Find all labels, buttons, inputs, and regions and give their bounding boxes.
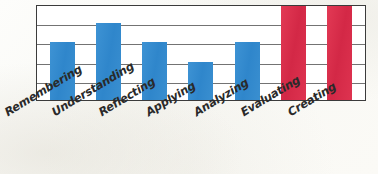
x-axis-labels: RememberingUnderstandingReflectingApplyi… <box>36 101 366 174</box>
